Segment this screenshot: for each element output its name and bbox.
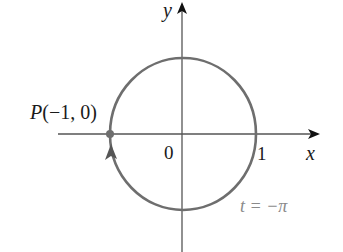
x-axis-label: x <box>305 142 315 164</box>
origin-label: 0 <box>164 142 174 163</box>
x-tick-label-1: 1 <box>257 143 267 164</box>
point-p-marker <box>106 130 114 138</box>
y-axis-label: y <box>161 0 172 22</box>
point-p-label: P(−1, 0) <box>29 101 97 124</box>
direction-arrow-icon <box>105 144 117 160</box>
unit-circle-diagram: P(−1, 0) 0 1 x y t = −π <box>0 0 343 252</box>
parameter-label: t = −π <box>240 196 288 216</box>
